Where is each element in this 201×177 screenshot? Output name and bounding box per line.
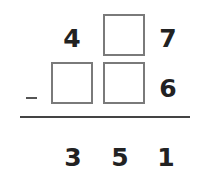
result-ones-digit: 1 [156, 145, 176, 170]
subtrahend-hundreds-blank-box[interactable] [51, 62, 93, 104]
result-tens-digit: 5 [110, 145, 130, 170]
minuend-ones-digit: 7 [158, 26, 178, 51]
sum-line-divider [20, 116, 190, 118]
minus-sign [26, 97, 37, 99]
subtrahend-tens-blank-box[interactable] [103, 62, 145, 104]
minuend-hundreds-digit: 4 [62, 26, 82, 51]
subtrahend-ones-digit: 6 [158, 76, 178, 101]
result-hundreds-digit: 3 [63, 145, 83, 170]
minuend-tens-blank-box[interactable] [103, 14, 145, 56]
